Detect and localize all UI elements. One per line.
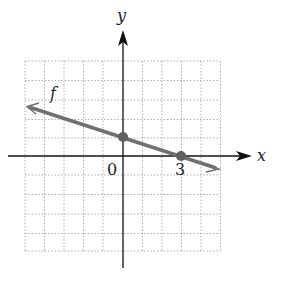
x-axis-label: x (257, 148, 266, 164)
origin-label: 0 (107, 162, 117, 178)
y-axis (118, 30, 128, 268)
y-axis-label: y (117, 8, 126, 24)
x-tick-label-3: 3 (175, 162, 185, 178)
y-intercept-point (118, 132, 128, 142)
graph (0, 0, 287, 284)
x-axis (8, 151, 252, 161)
function-label: f (50, 86, 56, 102)
